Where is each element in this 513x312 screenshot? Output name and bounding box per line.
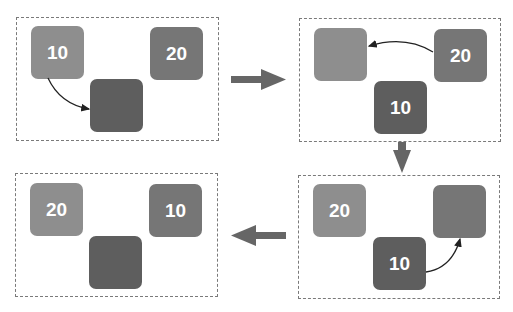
step3-slot-temp: 10: [373, 237, 426, 290]
step2-slot-b: 20: [434, 29, 487, 82]
step1-slot-a: 10: [31, 26, 84, 79]
step4-slot-a: 20: [30, 183, 83, 236]
step4-slot-temp: [89, 236, 142, 289]
flow-arrow-down-icon: [393, 142, 411, 173]
step2-slot-temp: 10: [374, 81, 427, 134]
step1-slot-b: 20: [150, 27, 203, 80]
step4-slot-b: 10: [149, 184, 202, 237]
step3-slot-b: [433, 185, 486, 238]
step3-slot-a: 20: [313, 184, 366, 237]
flow-arrow-right-icon: [231, 69, 286, 90]
step1-slot-temp: [90, 79, 143, 132]
flow-arrow-left-icon: [231, 225, 286, 246]
step2-slot-a: [314, 28, 367, 81]
